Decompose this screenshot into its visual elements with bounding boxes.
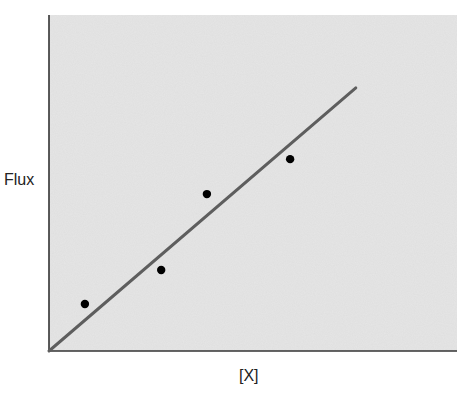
- chart-figure: Flux [X]: [0, 0, 464, 393]
- data-point: [81, 300, 89, 308]
- data-point: [286, 155, 294, 163]
- plot-background-texture: [49, 15, 457, 351]
- y-axis-label: Flux: [4, 170, 34, 190]
- x-axis-label: [X]: [239, 366, 259, 386]
- data-point: [157, 266, 165, 274]
- data-point: [203, 190, 211, 198]
- plot-area: [0, 0, 464, 393]
